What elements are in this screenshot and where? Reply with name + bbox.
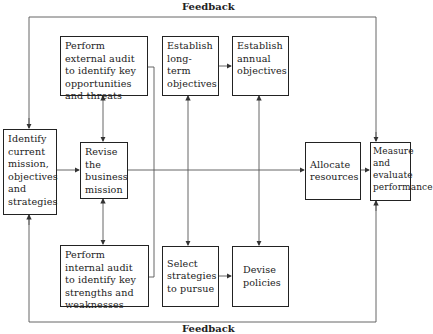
box-external-audit: Perform external audit to identify key o… — [60, 36, 148, 96]
box-long-term-objectives: Establish long-term objectives — [162, 36, 219, 96]
box-measure-performance: Measure and evaluate performance — [370, 142, 411, 201]
box-devise-policies: Devise policies — [232, 246, 289, 307]
feedback-label-top: Feedback — [182, 1, 235, 12]
box-revise-mission: Revise the business mission — [80, 142, 128, 199]
feedback-label-bottom: Feedback — [182, 323, 235, 334]
box-annual-objectives: Establish annual objectives — [232, 36, 289, 96]
box-allocate-resources: Allocate resources — [305, 142, 361, 200]
box-identify-mission: Identify current mission, objectives and… — [3, 129, 57, 215]
box-internal-audit: Perform internal audit to identify key s… — [60, 245, 149, 307]
box-select-strategies: Select strategies to pursue — [162, 246, 219, 307]
